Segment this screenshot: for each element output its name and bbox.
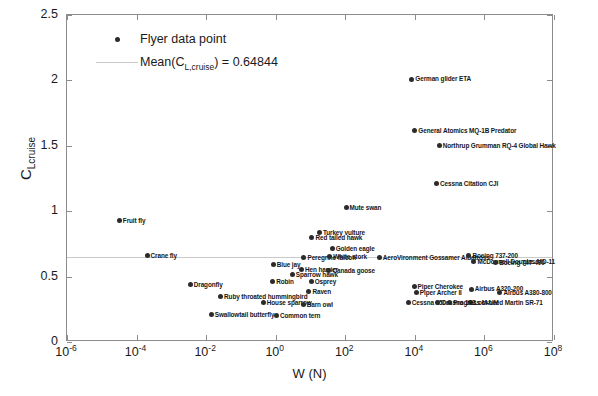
x-tick-label: 10-4 (125, 345, 146, 359)
x-tick-mantissa: 10 (544, 345, 558, 359)
legend-marker-dot-icon (94, 37, 140, 42)
data-point[interactable] (406, 300, 411, 305)
data-point[interactable] (145, 253, 150, 258)
x-tick-label: 102 (335, 345, 354, 359)
x-tick-mark (276, 335, 277, 340)
data-point-label: Cessna Citation CJI (440, 180, 498, 187)
x-tick-label: 106 (474, 345, 493, 359)
data-point[interactable] (301, 255, 306, 260)
data-point[interactable] (309, 279, 314, 284)
data-point[interactable] (409, 77, 414, 82)
data-point-label: Mute swan (350, 204, 382, 211)
data-point[interactable] (209, 312, 214, 317)
data-point[interactable] (414, 290, 419, 295)
data-point-label: Blue jay (277, 261, 301, 268)
data-point[interactable] (412, 128, 417, 133)
legend-marker-line-icon (94, 62, 140, 63)
x-tick-mark (484, 335, 485, 340)
data-point[interactable] (261, 300, 266, 305)
data-point[interactable] (435, 300, 440, 305)
x-tick-mark-top (206, 15, 207, 20)
y-tick-mark (67, 15, 72, 16)
x-tick-mark (345, 335, 346, 340)
y-axis-title-main: C (17, 169, 34, 180)
x-tick-exponent: -6 (69, 343, 77, 353)
data-point-label: Airbus A380-800 (503, 289, 551, 296)
data-point-label: Turkey vulture (323, 229, 365, 236)
plot-area: Fruit flyCrane flyDragonflyRuby throated… (66, 14, 553, 341)
data-point[interactable] (412, 284, 417, 289)
data-point-label: General Atomics MQ-1B Predator (418, 127, 516, 134)
x-tick-mark-top (415, 15, 416, 20)
data-point-label: Progress M-UM (453, 299, 499, 306)
data-point-label: Barn owl (307, 301, 333, 308)
data-point-label: Swallowtail butterfly (215, 311, 275, 318)
data-point-label: Osprey (315, 278, 336, 285)
data-point[interactable] (344, 205, 349, 210)
x-tick-mark (554, 335, 555, 340)
x-axis-title: W (N) (66, 366, 553, 381)
legend: Flyer data point Mean(CL,cruise) = 0.648… (94, 27, 329, 77)
y-tick-mark-right (547, 211, 552, 212)
x-tick-label: 10-2 (194, 345, 215, 359)
legend-mean-suffix: ) = 0.64844 (214, 55, 278, 69)
legend-label-flyer: Flyer data point (140, 32, 226, 46)
y-tick-label: 2.5 (41, 7, 58, 21)
data-point[interactable] (437, 143, 442, 148)
data-point-label: Common tern (280, 312, 320, 319)
x-tick-mantissa: 10 (125, 345, 139, 359)
data-point[interactable] (271, 262, 276, 267)
y-tick-mark (67, 146, 72, 147)
x-tick-exponent: 8 (558, 343, 563, 353)
x-tick-exponent: -2 (208, 343, 216, 353)
data-point-label: Boeing 747-400 (499, 259, 545, 266)
data-point-label: Fruit fly (123, 217, 146, 224)
y-tick-mark (67, 211, 72, 212)
data-point[interactable] (330, 246, 335, 251)
data-point-label: White stork (333, 253, 367, 260)
data-point[interactable] (434, 181, 439, 186)
y-tick-label: 1 (51, 203, 58, 217)
data-point[interactable] (117, 218, 122, 223)
x-tick-exponent: 6 (488, 343, 493, 353)
x-tick-exponent: -4 (139, 343, 147, 353)
x-tick-exponent: 0 (279, 343, 284, 353)
data-point[interactable] (469, 287, 474, 292)
data-point[interactable] (497, 290, 502, 295)
data-point[interactable] (218, 294, 223, 299)
data-point[interactable] (301, 302, 306, 307)
data-point-label: Golden eagle (336, 245, 375, 252)
y-tick-mark (67, 277, 72, 278)
data-point[interactable] (270, 279, 275, 284)
y-tick-label: 0 (51, 334, 58, 348)
data-point-label: German glider ETA (415, 75, 471, 82)
x-tick-mark-top (276, 15, 277, 20)
y-tick-mark (67, 80, 72, 81)
legend-entry-mean: Mean(CL,cruise) = 0.64844 (94, 52, 278, 72)
data-point[interactable] (290, 272, 295, 277)
y-tick-mark-right (547, 342, 552, 343)
data-point[interactable] (188, 282, 193, 287)
x-tick-mantissa: 10 (194, 345, 208, 359)
data-point[interactable] (306, 289, 311, 294)
data-point[interactable] (471, 259, 476, 264)
y-tick-label: 0.5 (41, 269, 58, 283)
data-point[interactable] (377, 255, 382, 260)
data-point[interactable] (309, 235, 314, 240)
data-point-label: Piper Archer II (420, 289, 462, 296)
x-tick-mark (206, 335, 207, 340)
legend-entry-flyer-data-point: Flyer data point (94, 29, 226, 49)
data-point[interactable] (274, 313, 279, 318)
data-point-label: Robin (276, 278, 294, 285)
legend-label-mean: Mean(CL,cruise) = 0.64844 (140, 55, 278, 69)
data-point-label: Canada goose (332, 267, 374, 274)
y-axis-title: CLcruise (17, 137, 34, 180)
data-point[interactable] (447, 300, 452, 305)
x-tick-mark (415, 335, 416, 340)
y-tick-mark-right (547, 277, 552, 278)
x-tick-mantissa: 10 (405, 345, 419, 359)
x-tick-mantissa: 10 (265, 345, 279, 359)
x-tick-exponent: 2 (349, 343, 354, 353)
x-tick-label: 108 (544, 345, 563, 359)
data-point-label: Raven (312, 288, 331, 295)
